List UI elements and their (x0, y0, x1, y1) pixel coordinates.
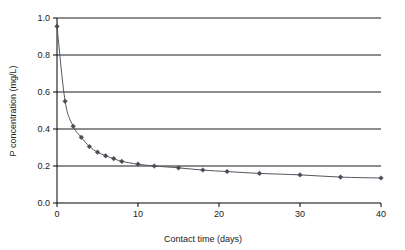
y-tick-label-1.0: 1.0 (37, 13, 50, 23)
y-tick-label-0.4: 0.4 (37, 124, 50, 134)
x-tick-label-20: 20 (214, 209, 224, 219)
y-axis-title: P concentration (mg/L) (8, 66, 18, 157)
y-tick-label-0.0: 0.0 (37, 198, 50, 208)
chart-background (0, 0, 405, 250)
p-concentration-vs-contact-time-chart: 0.00.20.40.60.81.0 010203040 Contact tim… (0, 0, 405, 250)
y-tick-label-0.6: 0.6 (37, 87, 50, 97)
x-axis-title: Contact time (days) (164, 234, 242, 244)
x-tick-label-10: 10 (133, 209, 143, 219)
x-tick-label-30: 30 (295, 209, 305, 219)
x-tick-label-40: 40 (376, 209, 386, 219)
y-tick-label-0.8: 0.8 (37, 50, 50, 60)
y-tick-label-0.2: 0.2 (37, 161, 50, 171)
chart-figure: 0.00.20.40.60.81.0 010203040 Contact tim… (0, 0, 405, 250)
x-tick-label-0: 0 (54, 209, 59, 219)
